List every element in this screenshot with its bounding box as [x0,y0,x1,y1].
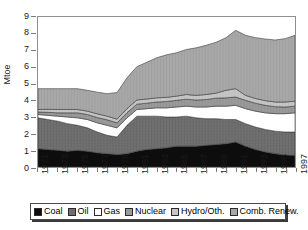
x-tick-mark [107,168,108,172]
y-tick-mark [31,84,36,85]
legend-swatch-icon [171,208,179,216]
x-tick-mark [127,168,128,172]
y-tick-label: 3 [7,113,29,122]
y-tick-label: 7 [7,45,29,54]
y-tick-label: 4 [7,96,29,105]
x-tick-mark [256,168,257,172]
y-tick-label: 5 [7,79,29,88]
legend-swatch-icon [230,208,238,216]
x-tick-mark [246,168,247,172]
x-tick-mark [296,168,297,172]
x-tick-mark [206,168,207,172]
legend-item-nuclear[interactable]: Nuclear [125,207,166,216]
plot-area [37,16,296,168]
x-tick-mark [157,168,158,172]
x-tick-label: 1975 [81,154,90,174]
x-tick-label: 1973 [61,154,70,174]
legend-swatch-icon [94,208,102,216]
y-axis-title: Mtoe [3,52,12,98]
y-axis: Mtoe 0123456789 [0,0,37,185]
legend-item-oil[interactable]: Oil [68,207,89,216]
y-tick-mark [31,33,36,34]
x-tick-mark [176,168,177,172]
legend-swatch-icon [125,208,133,216]
y-tick-mark [31,67,36,68]
x-tick-mark [87,168,88,172]
legend-swatch-icon [34,208,42,216]
x-tick-mark [226,168,227,172]
x-tick-label: 1981 [141,154,150,174]
x-tick-label: 1977 [101,154,110,174]
x-tick-label: 1989 [220,154,229,174]
x-tick-label: 1983 [161,154,170,174]
x-tick-label: 1971 [41,154,50,174]
chart-legend: CoalOilGasNuclearHydro/Oth.Comb. Renew. [30,203,286,220]
y-tick-label: 1 [7,147,29,156]
y-tick-mark [31,151,36,152]
legend-item-gas[interactable]: Gas [94,207,121,216]
legend-label: Coal [44,207,63,216]
x-tick-mark [97,168,98,172]
x-tick-mark [47,168,48,172]
x-tick-mark [186,168,187,172]
y-tick-mark [31,50,36,51]
x-tick-label: 1987 [200,154,209,174]
x-tick-mark [286,168,287,172]
legend-item-coal[interactable]: Coal [34,207,63,216]
x-tick-mark [67,168,68,172]
legend-label: Nuclear [135,207,166,216]
x-tick-mark [167,168,168,172]
x-tick-mark [266,168,267,172]
x-tick-mark [216,168,217,172]
x-tick-label: 1979 [121,154,130,174]
x-tick-mark [196,168,197,172]
x-tick-mark [236,168,237,172]
y-tick-mark [31,134,36,135]
x-tick-label: 1991 [240,154,249,174]
y-tick-label: 2 [7,130,29,139]
y-tick-mark [31,168,36,169]
y-tick-label: 9 [7,12,29,21]
x-tick-label: 1985 [180,154,189,174]
y-tick-mark [31,117,36,118]
x-tick-label: 1995 [280,154,289,174]
legend-swatch-icon [68,208,76,216]
x-tick-mark [137,168,138,172]
x-tick-label: 1997 [300,154,308,174]
legend-label: Comb. Renew. [240,207,299,216]
legend-item-hydro-oth[interactable]: Hydro/Oth. [171,207,225,216]
x-tick-mark [276,168,277,172]
area-series-group [38,17,295,167]
y-tick-label: 0 [7,164,29,173]
x-tick-mark [117,168,118,172]
x-tick-mark [57,168,58,172]
x-tick-label: 1993 [260,154,269,174]
y-tick-label: 8 [7,28,29,37]
y-tick-mark [31,100,36,101]
legend-label: Oil [78,207,89,216]
x-tick-mark [147,168,148,172]
y-tick-label: 6 [7,62,29,71]
legend-item-comb-renew[interactable]: Comb. Renew. [230,207,299,216]
legend-label: Gas [104,207,121,216]
y-tick-mark [31,16,36,17]
legend-label: Hydro/Oth. [181,207,225,216]
stacked-area-chart: Mtoe 0123456789 [0,0,308,230]
x-tick-mark [77,168,78,172]
x-tick-mark [37,168,38,172]
